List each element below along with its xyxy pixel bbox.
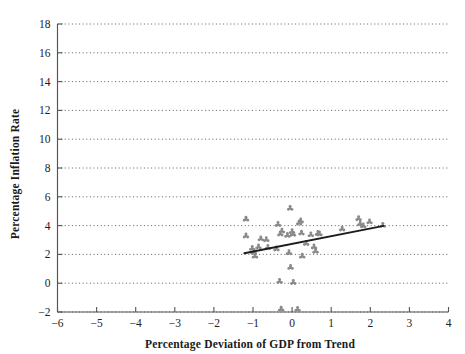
data-point bbox=[366, 218, 372, 224]
data-point bbox=[287, 205, 293, 211]
y-tick-label-0: 0 bbox=[45, 277, 51, 289]
x-axis-title: Percentage Deviation of GDP from Trend bbox=[145, 338, 355, 351]
x-tick-label--2: −2 bbox=[208, 317, 220, 329]
data-point bbox=[263, 236, 269, 242]
gridlines bbox=[58, 24, 449, 312]
y-tick-label-4: 4 bbox=[45, 220, 51, 232]
data-point bbox=[339, 226, 345, 232]
data-point bbox=[355, 215, 361, 221]
data-point bbox=[294, 306, 300, 312]
x-axis-ticks bbox=[58, 307, 449, 312]
data-point bbox=[243, 216, 249, 222]
data-point bbox=[255, 244, 261, 250]
x-tick-label-4: 4 bbox=[446, 317, 452, 329]
y-tick-label-10: 10 bbox=[39, 133, 51, 145]
y-axis-title: Percentage Inflation Rate bbox=[9, 109, 22, 240]
y-tick-label-2: 2 bbox=[45, 248, 51, 260]
scatter-chart-figure: −6−5−4−3−2−101234 −2024681012141618 Perc… bbox=[0, 0, 465, 354]
y-tick-label-6: 6 bbox=[45, 191, 51, 203]
y-tick-label-16: 16 bbox=[39, 47, 51, 59]
y-axis-tick-labels: −2024681012141618 bbox=[38, 18, 51, 318]
y-tick-label-8: 8 bbox=[45, 162, 51, 174]
y-tick-label-14: 14 bbox=[39, 76, 51, 88]
axes bbox=[58, 24, 449, 312]
x-tick-label--1: −1 bbox=[247, 317, 259, 329]
x-tick-label--4: −4 bbox=[130, 317, 142, 329]
x-tick-label--3: −3 bbox=[169, 317, 181, 329]
data-point bbox=[287, 264, 293, 270]
y-tick-label-12: 12 bbox=[39, 104, 51, 116]
x-tick-label-3: 3 bbox=[407, 317, 413, 329]
x-axis-tick-labels: −6−5−4−3−2−101234 bbox=[51, 317, 451, 329]
x-tick-label-1: 1 bbox=[328, 317, 334, 329]
data-point bbox=[308, 231, 314, 237]
y-tick-label--2: −2 bbox=[38, 306, 50, 318]
x-tick-label-2: 2 bbox=[367, 317, 373, 329]
plot-canvas: −6−5−4−3−2−101234 −2024681012141618 Perc… bbox=[0, 0, 465, 354]
data-point bbox=[290, 279, 296, 285]
data-point bbox=[243, 233, 249, 239]
y-tick-label-18: 18 bbox=[39, 18, 51, 30]
data-points bbox=[243, 205, 386, 312]
data-point bbox=[286, 249, 292, 255]
data-point bbox=[276, 278, 282, 284]
y-axis-ticks bbox=[58, 24, 63, 312]
x-tick-label--6: −6 bbox=[51, 317, 63, 329]
data-point bbox=[298, 230, 304, 236]
x-tick-label-0: 0 bbox=[289, 317, 295, 329]
data-point bbox=[299, 253, 305, 259]
data-point bbox=[279, 228, 285, 234]
data-point bbox=[278, 306, 284, 312]
data-point bbox=[258, 235, 264, 241]
x-tick-label--5: −5 bbox=[90, 317, 102, 329]
